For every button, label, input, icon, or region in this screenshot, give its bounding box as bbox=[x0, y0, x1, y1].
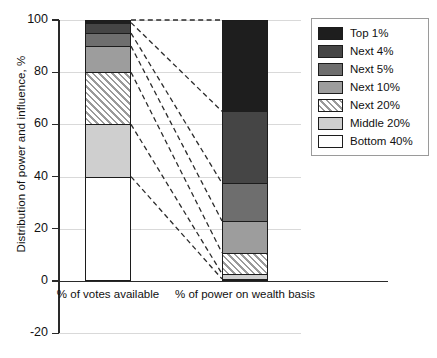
legend-item[interactable]: Next 10% bbox=[318, 78, 422, 96]
legend-swatch bbox=[318, 99, 343, 112]
bar-power-wealth bbox=[222, 20, 268, 281]
legend-label: Middle 20% bbox=[350, 117, 410, 129]
bar-segment bbox=[86, 178, 130, 281]
legend-swatch bbox=[318, 81, 343, 94]
legend-swatch bbox=[318, 117, 343, 130]
connector-line bbox=[131, 177, 222, 279]
legend-label: Top 1% bbox=[350, 27, 388, 39]
legend-item[interactable]: Top 1% bbox=[318, 24, 422, 42]
connector-line bbox=[131, 33, 222, 183]
bar-segment bbox=[86, 73, 130, 125]
connector-line bbox=[131, 23, 222, 112]
legend-label: Next 10% bbox=[350, 81, 400, 93]
y-axis-tick bbox=[52, 280, 59, 281]
legend-swatch bbox=[318, 63, 343, 76]
legend-item[interactable]: Next 20% bbox=[318, 96, 422, 114]
y-axis-tick-label: 20 bbox=[4, 221, 48, 235]
y-axis-tick-label: 100 bbox=[4, 12, 48, 26]
connector-line bbox=[131, 72, 222, 253]
x-axis-label-votes: % of votes available bbox=[48, 288, 168, 300]
y-axis-tick-label: 40 bbox=[4, 169, 48, 183]
bar-segment bbox=[86, 34, 130, 47]
legend-swatch bbox=[318, 27, 343, 40]
bar-segment bbox=[223, 254, 267, 275]
bar-segment bbox=[86, 21, 130, 24]
y-axis-tick-label: 0 bbox=[4, 273, 48, 287]
x-axis-label-power: % of power on wealth basis bbox=[165, 288, 325, 300]
bar-segment bbox=[223, 222, 267, 254]
legend: Top 1%Next 4%Next 5%Next 10%Next 20%Midd… bbox=[311, 18, 429, 156]
bar-segment bbox=[223, 112, 267, 184]
bar-segment bbox=[223, 275, 267, 280]
legend-label: Next 4% bbox=[350, 45, 393, 57]
legend-swatch bbox=[318, 135, 343, 148]
legend-label: Bottom 40% bbox=[350, 135, 413, 147]
bar-segment bbox=[223, 21, 267, 112]
bar-segment bbox=[86, 125, 130, 177]
bar-segment bbox=[86, 24, 130, 34]
y-axis-tick bbox=[52, 333, 59, 334]
legend-item[interactable]: Next 5% bbox=[318, 60, 422, 78]
gridline bbox=[58, 333, 301, 334]
y-axis-tick bbox=[52, 124, 59, 125]
bar-segment bbox=[223, 184, 267, 222]
y-axis-tick-label: 60 bbox=[4, 116, 48, 130]
y-axis-tick-label: -20 bbox=[4, 325, 48, 339]
chart-figure: Distribution of power and influence, % -… bbox=[0, 0, 437, 358]
y-axis-tick bbox=[52, 72, 59, 73]
y-axis-tick bbox=[52, 19, 59, 20]
legend-swatch bbox=[318, 45, 343, 58]
y-axis-tick-label: 80 bbox=[4, 64, 48, 78]
y-axis-tick bbox=[52, 176, 59, 177]
legend-label: Next 20% bbox=[350, 99, 400, 111]
bar-votes-available bbox=[85, 20, 131, 281]
y-axis-tick bbox=[52, 228, 59, 229]
legend-label: Next 5% bbox=[350, 63, 393, 75]
legend-item[interactable]: Bottom 40% bbox=[318, 132, 422, 150]
bar-segment bbox=[86, 47, 130, 73]
legend-item[interactable]: Middle 20% bbox=[318, 114, 422, 132]
x-axis-line bbox=[58, 281, 388, 282]
bar-segment bbox=[223, 280, 267, 281]
legend-item[interactable]: Next 4% bbox=[318, 42, 422, 60]
connector-line bbox=[131, 124, 222, 273]
